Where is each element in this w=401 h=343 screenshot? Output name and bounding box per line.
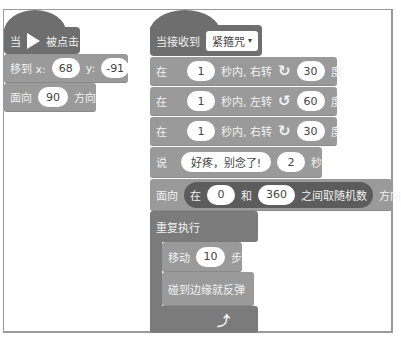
x-input[interactable]: 68 [52,58,80,78]
say-for-secs-block[interactable]: 说 好疼，别念了! 2 秒 [150,147,322,178]
when-flag-clicked-block[interactable]: 当 被点击 [4,27,80,54]
bounce-label: 碰到边缘就反弹 [168,281,245,297]
when-receive-block[interactable]: 当接收到 紧箍咒 ▾ [150,25,262,56]
turn-mid: 秒内, 右转 [221,123,272,139]
turn-prefix: 在 [156,63,167,79]
random-from-input[interactable]: 0 [207,185,235,205]
bounce-on-edge-block[interactable]: 碰到边缘就反弹 [162,272,254,306]
turn-block[interactable]: 在 1 秒内, 右转 ↻ 30 度 [150,117,337,146]
random-reporter[interactable]: 在 0 和 360 之间取随机数 [184,182,373,208]
degrees-input[interactable]: 30 [297,61,325,81]
clicked-label: 被点击 [46,33,79,49]
point-label: 面向 [156,187,178,203]
direction-suffix: 方向 [74,89,96,105]
degrees-input[interactable]: 30 [297,121,325,141]
green-flag-icon [27,33,40,49]
turn-prefix: 在 [156,123,167,139]
steps-input[interactable]: 10 [196,247,225,267]
point-label: 面向 [10,89,32,105]
goto-xy-block[interactable]: 移到 x: 68 y: -91 [4,54,128,83]
message-value: 紧箍咒 [212,33,245,49]
degrees-suffix: 度 [331,93,342,109]
chevron-down-icon: ▾ [248,36,252,45]
rotate-clockwise-icon: ↻ [278,122,291,140]
random-to-input[interactable]: 360 [258,185,295,205]
forever-label: 重复执行 [156,219,200,235]
steps-suffix: 步 [231,249,242,265]
forever-foot: ⤴ [150,306,258,333]
forever-block[interactable]: 重复执行 [150,211,258,242]
seconds-input[interactable]: 2 [277,152,305,172]
turn-mid: 秒内, 右转 [221,63,272,79]
seconds-input[interactable]: 1 [187,121,215,141]
seconds-input[interactable]: 1 [187,91,215,111]
point-direction-block[interactable]: 面向 90 方向 [4,83,96,112]
say-label: 说 [156,154,167,170]
random-prefix: 在 [190,187,201,203]
direction-suffix: 方向 [379,187,401,203]
message-input[interactable]: 好疼，别念了! [181,152,271,172]
rotate-clockwise-icon: ↻ [278,62,291,80]
random-and: 和 [241,187,252,203]
rotate-counterclockwise-icon: ↺ [278,92,291,110]
direction-input[interactable]: 90 [38,87,68,107]
message-dropdown[interactable]: 紧箍咒 ▾ [206,31,258,51]
loop-arrow-icon: ⤴ [217,310,230,329]
forever-arm [150,241,162,307]
turn-block[interactable]: 在 1 秒内, 右转 ↻ 30 度 [150,57,337,86]
turn-prefix: 在 [156,93,167,109]
degrees-suffix: 度 [331,63,342,79]
move-steps-block[interactable]: 移动 10 步 [162,242,242,272]
degrees-suffix: 度 [331,123,342,139]
when-label: 当 [10,33,21,49]
degrees-input[interactable]: 60 [297,91,325,111]
point-random-direction-block[interactable]: 面向 在 0 和 360 之间取随机数 方向 [150,179,392,211]
y-input[interactable]: -91 [101,58,129,78]
move-label: 移动 [168,249,190,265]
seconds-suffix: 秒 [311,154,322,170]
goto-label: 移到 x: [10,60,46,76]
y-label: y: [86,62,95,75]
random-suffix: 之间取随机数 [301,187,367,203]
turn-mid: 秒内, 左转 [221,93,272,109]
receive-label: 当接收到 [156,33,200,49]
turn-block[interactable]: 在 1 秒内, 左转 ↺ 60 度 [150,87,337,116]
seconds-input[interactable]: 1 [187,61,215,81]
